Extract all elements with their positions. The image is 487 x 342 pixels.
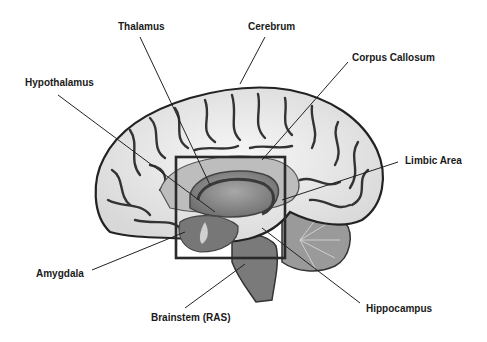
leader-cerebrum xyxy=(240,37,265,84)
label-thalamus: Thalamus xyxy=(118,21,165,33)
lower-inner xyxy=(179,216,238,252)
label-cerebrum: Cerebrum xyxy=(248,21,295,33)
label-limbic-area: Limbic Area xyxy=(405,155,462,167)
leader-brainstem xyxy=(185,264,245,308)
label-corpus-callosum: Corpus Callosum xyxy=(352,52,435,64)
label-amygdala: Amygdala xyxy=(36,268,84,280)
label-hippocampus: Hippocampus xyxy=(366,303,432,315)
label-hypothalamus: Hypothalamus xyxy=(25,77,94,89)
label-brainstem: Brainstem (RAS) xyxy=(151,312,230,324)
